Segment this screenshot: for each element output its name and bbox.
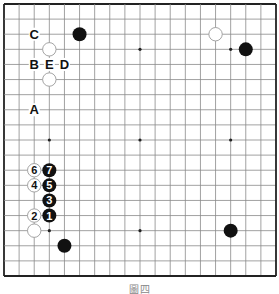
move-number: 6 — [31, 164, 37, 176]
move-number: 4 — [31, 179, 38, 191]
move-number: 1 — [46, 210, 52, 222]
black-stone-3: 3 — [42, 193, 56, 207]
move-number: 5 — [46, 179, 52, 191]
black-stone — [57, 239, 71, 253]
white-stone — [43, 43, 56, 56]
black-stone-5: 5 — [42, 178, 56, 192]
move-number: 3 — [46, 194, 52, 206]
star-point — [48, 229, 51, 232]
star-point — [229, 138, 232, 141]
black-stone-7: 7 — [42, 163, 56, 177]
point-letter-a: A — [30, 102, 40, 117]
point-letter-b: B — [30, 57, 39, 72]
star-point — [229, 48, 232, 51]
move-number: 7 — [46, 164, 52, 176]
point-letter-d: D — [60, 57, 69, 72]
black-stone-1: 1 — [42, 209, 56, 223]
star-point — [138, 138, 141, 141]
move-number: 2 — [31, 210, 37, 222]
point-letter-c: C — [30, 27, 40, 42]
point-letter-e: E — [45, 57, 54, 72]
white-stone-6: 6 — [28, 164, 41, 177]
black-stone — [239, 42, 253, 56]
white-stone-4: 4 — [28, 179, 41, 192]
black-stone — [224, 224, 238, 238]
star-point — [138, 229, 141, 232]
white-stone — [43, 73, 56, 86]
star-point — [138, 48, 141, 51]
go-board: CBEDA 1234567 — [0, 0, 279, 280]
white-stone — [28, 224, 41, 237]
black-stone — [73, 27, 87, 41]
star-point — [48, 138, 51, 141]
white-stone — [209, 28, 222, 41]
white-stone-2: 2 — [28, 209, 41, 222]
figure-caption: 圖四 — [0, 281, 279, 294]
